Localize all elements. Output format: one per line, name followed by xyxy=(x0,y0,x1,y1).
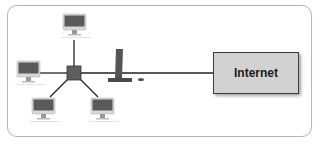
connection-lines xyxy=(40,40,213,97)
internet-node: Internet xyxy=(213,52,299,94)
link-hub-bottom-right xyxy=(80,79,98,97)
computer-icon-bottom-right xyxy=(89,98,119,122)
internet-label: Internet xyxy=(234,66,278,80)
computer-icon-top xyxy=(61,14,91,38)
link-hub-bottom-left xyxy=(50,79,68,97)
hub-icon xyxy=(67,66,81,80)
computer-icon-bottom-left xyxy=(30,98,60,122)
router-tower-icon xyxy=(108,49,144,82)
